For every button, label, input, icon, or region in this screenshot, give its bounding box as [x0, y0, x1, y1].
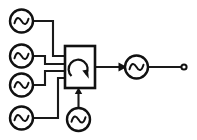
source-5[interactable] — [67, 108, 90, 131]
source-2[interactable] — [10, 45, 33, 68]
source-1[interactable] — [10, 10, 33, 33]
signal-combiner-diagram: Multi-source signal combiner schematic — [0, 0, 197, 140]
wire-source-1-to-mixer — [33, 21, 65, 56]
output-terminal-icon[interactable] — [181, 64, 186, 69]
wire-source-2-to-mixer — [33, 56, 65, 64]
source-4[interactable] — [10, 107, 33, 130]
mixer-box[interactable] — [65, 46, 95, 88]
output-oscillator[interactable] — [125, 56, 148, 79]
schematic-canvas — [0, 0, 197, 140]
source-3[interactable] — [10, 74, 33, 97]
wire-group — [33, 21, 182, 118]
